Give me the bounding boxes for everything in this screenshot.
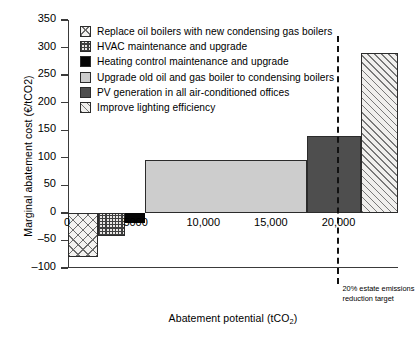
y-tick-label: 250 <box>0 67 56 79</box>
y-tick-label: 100 <box>0 150 56 162</box>
y-tick-label: 350 <box>0 12 56 24</box>
y-tick-label: 200 <box>0 95 56 107</box>
y-tick-label: –50 <box>0 232 56 244</box>
y-tick-mark <box>61 19 68 20</box>
bar-checker[interactable] <box>98 213 125 236</box>
x-axis-title: Abatement potential (tCO2) <box>68 312 398 326</box>
legend-label: HVAC maintenance and upgrade <box>97 41 247 52</box>
legend-item[interactable]: Improve lighting efficiency <box>80 100 334 115</box>
legend-swatch-dark-grey <box>80 87 91 98</box>
x-axis-title-tail: ) <box>294 312 298 324</box>
y-tick-mark <box>61 185 68 186</box>
legend-swatch-cross-hatch <box>80 26 91 37</box>
y-tick-mark <box>61 240 68 241</box>
bar-diagonal-hatch[interactable] <box>361 53 398 213</box>
legend-item[interactable]: HVAC maintenance and upgrade <box>80 39 334 54</box>
y-tick-label: –100 <box>0 260 56 272</box>
y-tick-mark <box>61 267 68 268</box>
bar-dark-grey[interactable] <box>307 136 361 213</box>
y-tick-mark <box>61 130 68 131</box>
legend-item[interactable]: PV generation in all air-conditioned off… <box>80 85 334 100</box>
legend-swatch-light-grey <box>80 72 91 83</box>
x-tick-label: 5000 <box>123 216 147 228</box>
y-tick-label: 300 <box>0 40 56 52</box>
y-tick-label: 150 <box>0 122 56 134</box>
legend-label: PV generation in all air-conditioned off… <box>97 87 289 98</box>
legend-label: Heating control maintenance and upgrade <box>97 56 289 67</box>
legend-label: Replace oil boilers with new condensing … <box>97 26 332 37</box>
legend-swatch-diagonal-hatch <box>80 102 91 113</box>
marginal-abatement-cost-chart: Marginal abatement cost (€/tCO2) Abateme… <box>0 0 420 340</box>
legend-item[interactable]: Upgrade old oil and gas boiler to conden… <box>80 70 334 85</box>
y-tick-mark <box>61 74 68 75</box>
x-tick-label: 10,000 <box>186 216 220 228</box>
y-tick-mark <box>61 102 68 103</box>
legend: Replace oil boilers with new condensing … <box>80 24 334 115</box>
x-tick-label: 15,000 <box>254 216 288 228</box>
emissions-target-line <box>337 36 339 284</box>
bar-light-grey[interactable] <box>145 160 307 213</box>
emissions-target-note: 20% estate emissionsreduction target <box>342 284 414 304</box>
y-tick-mark <box>61 157 68 158</box>
emissions-target-note-line2: reduction target <box>342 294 414 304</box>
y-tick-label: 50 <box>0 177 56 189</box>
y-tick-mark <box>61 47 68 48</box>
legend-label: Improve lighting efficiency <box>97 102 215 113</box>
legend-item[interactable]: Replace oil boilers with new condensing … <box>80 24 334 39</box>
legend-swatch-checker <box>80 41 91 52</box>
y-tick-label: 0 <box>0 205 56 217</box>
y-tick-mark <box>61 212 68 213</box>
legend-label: Upgrade old oil and gas boiler to conden… <box>97 72 334 83</box>
bar-cross-hatch[interactable] <box>68 213 98 257</box>
x-axis-title-text: Abatement potential (tCO <box>169 312 290 324</box>
x-tick-label: 0 <box>64 216 70 228</box>
emissions-target-note-line1: 20% estate emissions <box>342 284 414 294</box>
legend-swatch-solid-black <box>80 56 91 67</box>
legend-item[interactable]: Heating control maintenance and upgrade <box>80 54 334 69</box>
